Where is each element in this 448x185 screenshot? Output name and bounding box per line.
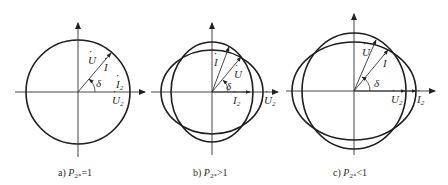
label-delta: δ <box>96 77 102 89</box>
phasor-diagram-figure: U · I · δ I2 · U2 · a) P2*=1 I · U · δ I… <box>0 0 448 185</box>
dot-i: · <box>383 48 386 60</box>
dot-u2: · <box>392 84 395 96</box>
panel-c: U · I · δ U2 · I2 · c) P2*<1 <box>286 14 435 180</box>
panel-a: U · I · δ I2 · U2 · a) P2*=1 <box>15 23 145 180</box>
dot-u: · <box>89 45 92 57</box>
dot-i: · <box>214 47 217 59</box>
caption-c: c) P2*<1 <box>333 167 367 180</box>
caption-a: a) P2*=1 <box>58 167 92 180</box>
dot-u: · <box>363 37 366 49</box>
caption-b: b) P2*>1 <box>193 167 228 180</box>
dot-i2: · <box>417 84 420 96</box>
label-delta: δ <box>226 80 232 92</box>
dot-i: · <box>104 52 107 64</box>
angle-arc <box>89 79 95 92</box>
dot-u2: · <box>113 85 116 97</box>
dot-u2: · <box>265 85 268 97</box>
dot-u: · <box>235 59 238 71</box>
dot-i2: · <box>233 85 236 97</box>
panel-b: I · U · δ I2 · U2 · b) P2*>1 <box>151 23 278 180</box>
angle-arc <box>362 77 370 91</box>
dot-i2: · <box>116 69 119 81</box>
label-delta: δ <box>374 77 380 89</box>
